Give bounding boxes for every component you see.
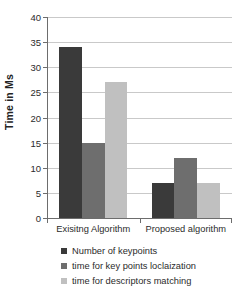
bar — [59, 47, 82, 218]
legend-item-label: Number of keypoints — [72, 246, 157, 256]
gridline — [47, 42, 232, 43]
y-axis-tick-label: 15 — [30, 137, 41, 148]
bar — [152, 183, 175, 218]
y-axis-tick-label: 25 — [30, 87, 41, 98]
y-axis-tick-label: 20 — [30, 112, 41, 123]
bar — [82, 143, 105, 218]
plot-area: 0510152025303540 — [47, 17, 232, 219]
y-axis-tick-label: 5 — [36, 187, 41, 198]
gridline — [47, 17, 232, 18]
y-axis-title: Time in Ms — [3, 64, 15, 140]
legend-item[interactable]: time for descriptors matching — [0, 273, 243, 288]
x-axis-tick-mark — [231, 219, 232, 223]
legend-item[interactable]: time for key points loclaization — [0, 258, 243, 273]
x-axis-tick-mark — [140, 219, 141, 223]
bar — [105, 82, 128, 218]
legend-item[interactable]: Number of keypoints — [0, 243, 243, 258]
legend-item-label: time for key points loclaization — [72, 261, 196, 271]
y-axis-tick-label: 10 — [30, 162, 41, 173]
y-axis-line — [47, 17, 48, 219]
chart-legend: Number of keypointstime for key points l… — [0, 243, 243, 288]
x-axis-tick-mark — [47, 219, 48, 223]
y-axis-tick-label: 40 — [30, 12, 41, 23]
bar-chart-figure: Time in Ms 0510152025303540 Number of ke… — [0, 0, 243, 301]
y-axis-tick-label: 30 — [30, 62, 41, 73]
bar — [174, 158, 197, 218]
legend-swatch-icon — [61, 278, 67, 284]
x-axis-category-label: Proposed algorithm — [145, 224, 226, 234]
legend-swatch-icon — [61, 263, 67, 269]
bar — [197, 183, 220, 218]
x-axis-category-label: Exisitng Algorithm — [56, 224, 130, 234]
legend-item-label: time for descriptors matching — [72, 276, 191, 286]
y-axis-tick-label: 35 — [30, 37, 41, 48]
y-axis-tick-label: 0 — [36, 213, 41, 224]
legend-swatch-icon — [61, 248, 67, 254]
